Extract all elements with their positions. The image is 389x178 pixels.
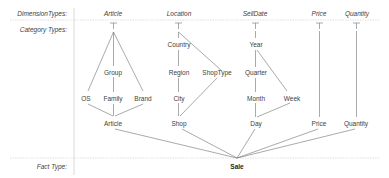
category-article: Article <box>104 120 122 127</box>
category-country: Country <box>168 41 191 48</box>
category-quarter: Quarter <box>245 69 267 76</box>
fact-sale: Sale <box>230 163 243 170</box>
row-label-fact-type: Fact Type: <box>5 163 67 170</box>
category-shop: Shop <box>171 120 186 127</box>
dimension-price: Price <box>312 10 327 17</box>
category-region: Region <box>169 69 190 76</box>
category-day: Day <box>250 120 262 127</box>
category-group: Group <box>104 69 122 76</box>
dimension-selldate: SellDate <box>243 10 268 17</box>
category-family: Family <box>103 95 122 102</box>
category-city: City <box>173 95 184 102</box>
category-os: OS <box>81 95 90 102</box>
row-label-category-types: Category Types: <box>5 26 67 33</box>
row-label-dimension-types: DimensionTypes: <box>5 10 67 17</box>
category-year: Year <box>249 41 262 48</box>
dimension-location: Location <box>167 10 192 17</box>
category-shoptype: ShopType <box>202 69 231 76</box>
category-price: Price <box>312 120 327 127</box>
dimension-quantity: Quantity <box>345 10 369 17</box>
category-week: Week <box>284 95 301 102</box>
dimension-article: Article <box>104 10 122 17</box>
category-brand: Brand <box>134 95 151 102</box>
category-month: Month <box>247 95 265 102</box>
category-quantity: Quantity <box>344 120 368 127</box>
